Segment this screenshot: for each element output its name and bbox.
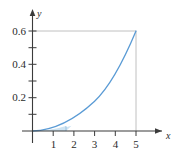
y-tick-label-06: 0.6 (2, 26, 26, 37)
y-axis-label: y (37, 9, 41, 19)
y-tick-label-02: 0.2 (2, 92, 26, 103)
x-tick-label-4: 4 (109, 139, 122, 150)
x-axis-label: x (166, 131, 170, 141)
y-tick-label-04: 0.4 (2, 59, 26, 70)
x-axis-arrow-icon (155, 128, 162, 134)
x-tick-label-3: 3 (88, 139, 101, 150)
x-tick-label-2: 2 (68, 139, 81, 150)
graph-figure: 0.6 0.4 0.2 1 2 3 4 5 y x (0, 0, 182, 157)
curve-path (33, 31, 137, 131)
plot-area (0, 0, 182, 157)
x-tick-label-5: 5 (130, 139, 143, 150)
x-tick-label-1: 1 (47, 139, 60, 150)
y-axis-arrow-icon (30, 9, 36, 16)
